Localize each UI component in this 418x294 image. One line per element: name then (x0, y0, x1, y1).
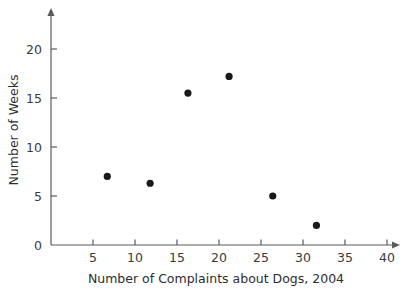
x-tick-label: 30 (295, 250, 311, 265)
data-point (104, 173, 111, 180)
x-axis-title: Number of Complaints about Dogs, 2004 (88, 271, 344, 286)
x-tick-label: 15 (169, 250, 185, 265)
scatter-chart: 05101520 510152025303540 Number of Compl… (0, 0, 418, 294)
x-tick-label: 20 (211, 250, 227, 265)
x-axis: 510152025303540 (51, 240, 400, 266)
data-point (225, 73, 232, 80)
data-point (269, 192, 276, 199)
data-point (184, 90, 191, 97)
y-tick-label: 20 (26, 42, 42, 57)
y-axis-title: Number of Weeks (6, 75, 21, 186)
data-points (104, 73, 320, 229)
y-tick-label: 10 (26, 140, 42, 155)
y-tick-label: 15 (26, 91, 42, 106)
x-tick-label: 10 (127, 250, 143, 265)
y-axis-arrow-icon (47, 8, 54, 16)
y-tick-label: 5 (34, 189, 42, 204)
data-point (313, 222, 320, 229)
x-tick-label: 35 (337, 250, 353, 265)
x-tick-label: 5 (89, 250, 97, 265)
x-tick-label: 25 (253, 250, 269, 265)
x-axis-arrow-icon (392, 241, 400, 248)
data-point (147, 180, 154, 187)
plot-area: 05101520 510152025303540 Number of Compl… (0, 0, 418, 294)
y-axis: 05101520 (26, 8, 57, 253)
y-tick-label: 0 (34, 238, 42, 253)
x-tick-label: 40 (379, 250, 395, 265)
